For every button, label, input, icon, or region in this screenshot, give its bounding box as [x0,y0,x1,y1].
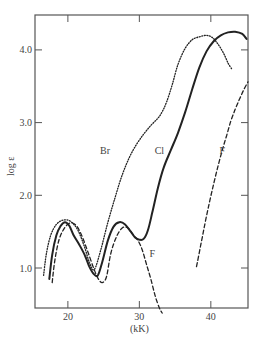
x-tick-label: 30 [134,311,144,322]
curve-f-high-energy [197,82,249,267]
y-tick-label: 4.0 [20,44,33,55]
y-tick-label: 1.0 [20,263,33,274]
y-axis-label: log ε [5,156,16,175]
x-tick-label: 40 [206,311,216,322]
absorption-spectrum-chart: 2030401.02.03.04.0(kK)log ε BrClFF [0,0,260,347]
y-tick-label: 2.0 [20,190,33,201]
plot-frame [35,15,248,308]
plot-axes: 2030401.02.03.04.0(kK)log ε [5,15,248,335]
x-tick-label: 20 [63,311,73,322]
curve-label-cl: Cl [155,145,165,156]
y-tick-label: 3.0 [20,117,33,128]
plot-labels: BrClFF [100,145,225,259]
curve-cl [49,32,246,279]
plot-curves [44,32,248,313]
x-axis-label: (kK) [130,323,149,335]
curve-label-f: F [219,145,225,156]
curve-label-f: F [149,248,155,259]
curve-label-br: Br [100,145,111,156]
